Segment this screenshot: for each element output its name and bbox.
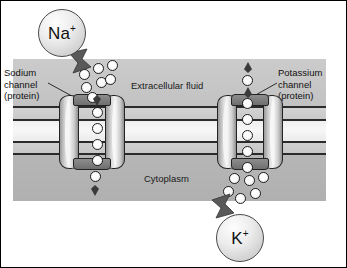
sodium-ion-bubble[interactable]: Na+ (38, 9, 86, 57)
potassium-ion-bubble[interactable]: K+ (216, 214, 264, 262)
arrow-potassium-outward (212, 194, 234, 218)
diagram-stage: Extracellular fluid Cytoplasm Sodium cha… (1, 1, 346, 267)
potassium-ion-symbol: K+ (231, 228, 249, 249)
sodium-charge: + (70, 23, 76, 34)
potassium-charge: + (243, 228, 249, 239)
figure-ion-channels: Extracellular fluid Cytoplasm Sodium cha… (0, 0, 347, 268)
sodium-ion-symbol: Na+ (48, 23, 76, 44)
